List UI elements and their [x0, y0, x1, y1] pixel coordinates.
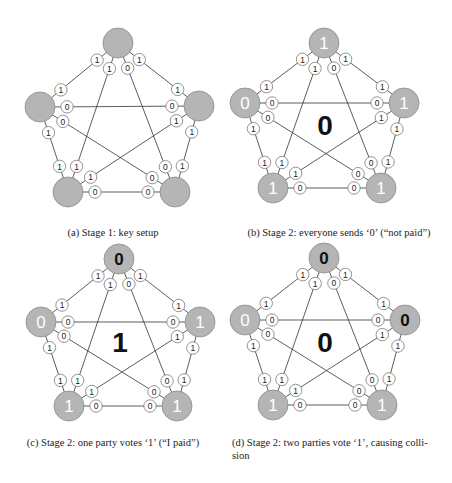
edge-key-labels: 11111100001100111100: [42, 53, 198, 198]
participant-value-L: 0: [36, 313, 45, 332]
key-bit-label: 1: [280, 158, 285, 168]
key-bit-label: 0: [152, 387, 157, 397]
key-bit-label: 1: [381, 299, 386, 309]
key-bit-label: 1: [189, 127, 194, 137]
participant-value-T: 0: [319, 249, 328, 268]
key-bit-label: 1: [175, 85, 180, 95]
key-bit-label: 1: [95, 55, 100, 65]
key-bit-label: 1: [379, 113, 384, 123]
key-bit-label: 1: [137, 55, 142, 65]
key-bit-label: 1: [59, 85, 64, 95]
key-bit-label: 1: [89, 387, 94, 397]
participant-node-R: [184, 91, 214, 121]
key-bit-label: 0: [65, 102, 70, 112]
participant-value-R: 1: [399, 94, 408, 113]
caption-b: (b) Stage 2: everyone sends ‘0’ (“not pa…: [226, 226, 452, 239]
participant-value-L: 0: [240, 311, 249, 330]
participant-value-BR: 1: [377, 396, 386, 415]
participant-value-BR: 1: [172, 397, 181, 416]
key-bit-label: 1: [396, 341, 401, 351]
network-diagram-d: 11111100001100111100000110: [226, 240, 452, 436]
key-bit-label: 1: [313, 64, 318, 74]
key-bit-label: 0: [266, 329, 271, 339]
key-bit-label: 0: [66, 317, 71, 327]
xor-result: 0: [317, 327, 333, 358]
caption-a: (a) Stage 1: key setup: [0, 226, 226, 239]
panel-a-key-setup: 11111100001100111100 (a) Stage 1: key se…: [0, 0, 226, 240]
key-bit-label: 1: [175, 332, 180, 342]
key-bit-label: 0: [370, 375, 375, 385]
key-bit-label: 1: [174, 116, 179, 126]
key-bit-label: 0: [62, 331, 67, 341]
participant-value-L: 0: [240, 94, 249, 113]
caption-c: (c) Stage 2: one party votes ‘1’ (“I pai…: [0, 436, 226, 449]
key-bit-label: 0: [146, 187, 151, 197]
key-bit-label: 0: [298, 400, 303, 410]
participant-value-T: 1: [319, 34, 328, 53]
key-bit-label: 1: [107, 64, 112, 74]
key-bit-label: 1: [251, 124, 256, 134]
key-bit-label: 1: [57, 162, 62, 172]
participant-node-BL: [53, 177, 83, 207]
key-bit-label: 1: [343, 54, 348, 64]
key-bit-label: 1: [251, 341, 256, 351]
participant-nodes: [25, 28, 214, 207]
participant-value-R: 0: [400, 311, 409, 330]
caption-d-line1: (d) Stage 2: two parties vote ‘1’, causi…: [232, 437, 428, 448]
key-bit-label: 0: [163, 162, 168, 172]
key-bit-label: 1: [380, 330, 385, 340]
key-bit-label: 0: [270, 98, 275, 108]
key-bit-label: 1: [60, 300, 65, 310]
participant-value-R: 1: [195, 313, 204, 332]
key-bit-label: 1: [387, 374, 392, 384]
key-bit-label: 0: [357, 386, 362, 396]
key-bit-label: 1: [380, 82, 385, 92]
key-bit-label: 0: [93, 187, 98, 197]
caption-d: (d) Stage 2: two parties vote ‘1’, causi…: [232, 436, 440, 462]
key-bit-label: 0: [369, 158, 374, 168]
network-diagram-b: 11111100001100111100101110: [226, 0, 452, 226]
key-bit-label: 0: [94, 401, 99, 411]
key-bit-label: 1: [343, 270, 348, 280]
key-bit-label: 1: [293, 169, 298, 179]
key-bit-label: 0: [171, 317, 176, 327]
key-bit-label: 1: [180, 161, 185, 171]
participant-value-BL: 1: [64, 397, 73, 416]
key-bit-label: 0: [165, 376, 170, 386]
participant-node-L: [25, 92, 55, 122]
xor-result: 1: [112, 327, 128, 358]
key-bit-label: 0: [150, 173, 155, 183]
key-bit-label: 1: [262, 375, 267, 385]
key-bit-label: 0: [298, 183, 303, 193]
key-bit-label: 1: [74, 162, 79, 172]
key-bit-label: 0: [170, 101, 175, 111]
key-bit-label: 1: [108, 280, 113, 290]
key-bit-label: 0: [376, 315, 381, 325]
key-bit-label: 1: [313, 279, 318, 289]
key-bit-label: 1: [46, 128, 51, 138]
key-bit-label: 0: [356, 169, 361, 179]
xor-result: 0: [317, 110, 333, 141]
key-bit-label: 0: [332, 278, 337, 288]
participant-value-BL: 1: [268, 396, 277, 415]
key-bit-label: 1: [182, 375, 187, 385]
participant-node-BR: [160, 177, 190, 207]
key-bit-label: 0: [125, 63, 130, 73]
key-bit-label: 1: [300, 55, 305, 65]
panel-c-one-party-votes: 11111100001100111100001111 (c) Stage 2: …: [0, 240, 226, 483]
key-bit-label: 1: [264, 299, 269, 309]
key-bit-label: 0: [60, 117, 65, 127]
participant-value-BL: 1: [268, 179, 277, 198]
key-bit-label: 0: [270, 315, 275, 325]
key-bit-label: 1: [262, 158, 267, 168]
key-bit-label: 0: [148, 401, 153, 411]
network-diagram-a: 11111100001100111100: [0, 0, 226, 226]
key-bit-label: 1: [395, 124, 400, 134]
caption-d-line2: sion: [232, 450, 250, 461]
panel-b-everyone-sends-zero: 11111100001100111100101110 (b) Stage 2: …: [226, 0, 452, 240]
participant-node-T: [103, 28, 133, 58]
key-bit-label: 1: [264, 82, 269, 92]
key-bit-label: 1: [176, 301, 181, 311]
key-bit-label: 1: [300, 270, 305, 280]
key-bit-label: 1: [191, 343, 196, 353]
